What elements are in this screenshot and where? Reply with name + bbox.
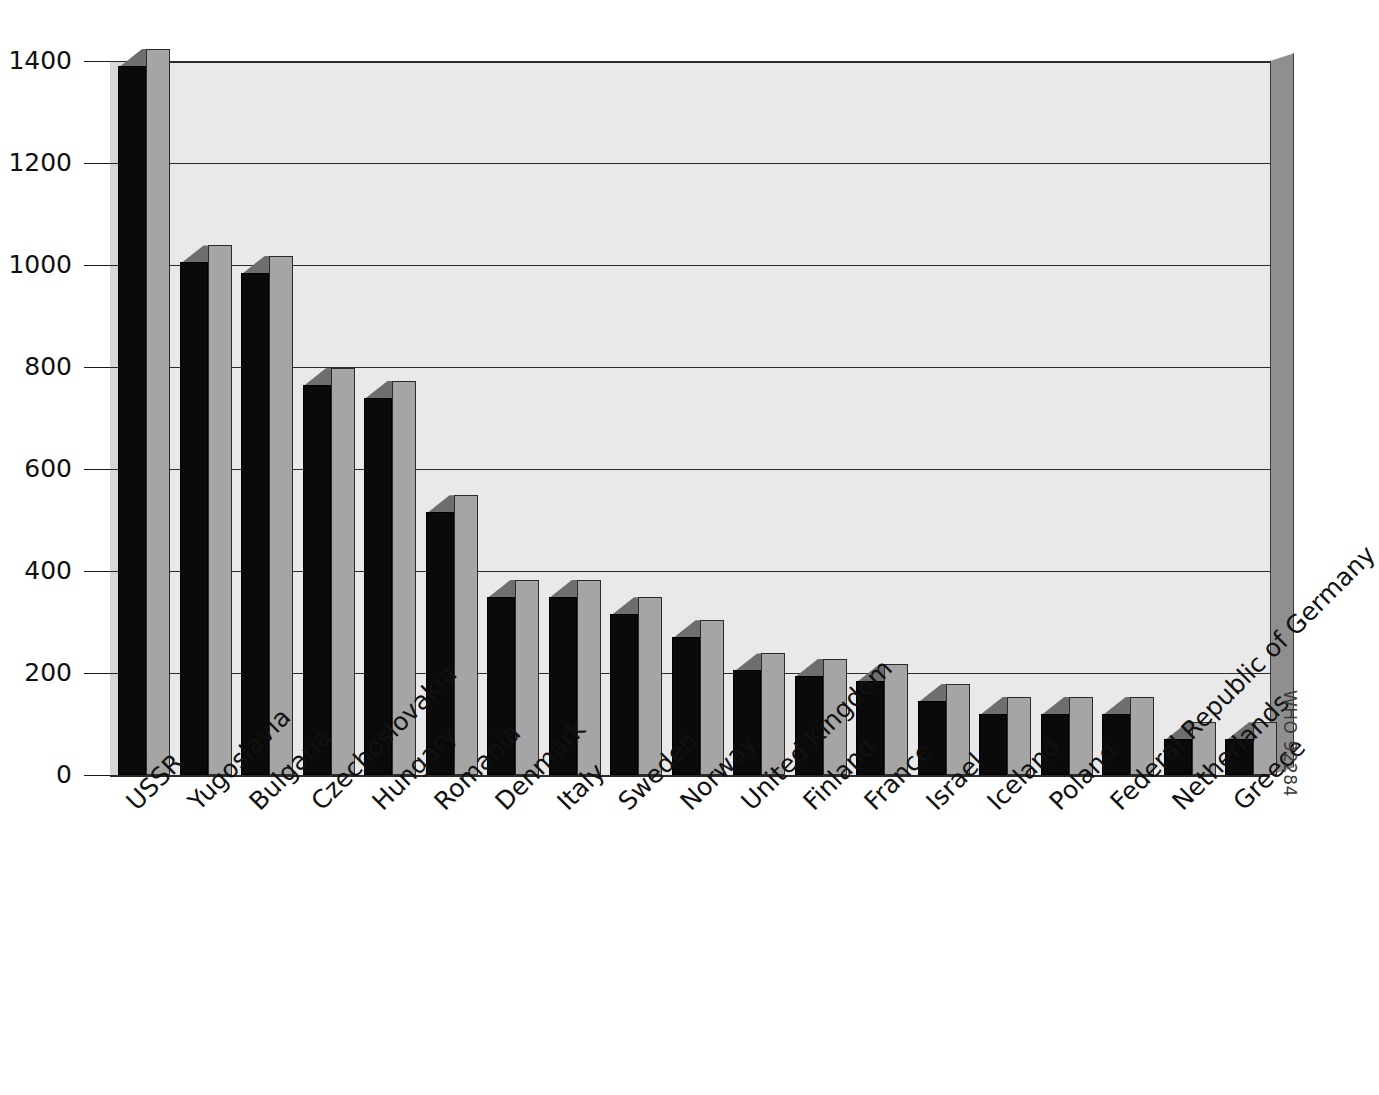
x-axis-label: Italy: [553, 759, 609, 815]
x-axis-label: USSR: [122, 749, 187, 814]
source-code-label: WHO 92284: [1280, 690, 1300, 797]
x-axis-label: Federal Republic of Germany: [1106, 541, 1379, 815]
